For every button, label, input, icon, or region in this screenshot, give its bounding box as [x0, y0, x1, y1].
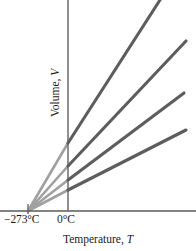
- x-axis-title-text: Temperature,: [63, 233, 127, 245]
- extrapolated-line-2: [28, 166, 68, 211]
- y-axis-title-text: Volume,: [49, 76, 61, 117]
- data-line-4: [68, 130, 186, 190]
- y-axis-title-variable: V: [49, 69, 61, 76]
- extrapolated-segments: [28, 143, 68, 211]
- x-tick-label-zero-celsius: 0°C: [57, 213, 75, 225]
- measured-segments: [68, 0, 186, 190]
- extrapolated-line-3: [28, 180, 68, 211]
- x-axis-title-variable: T: [127, 233, 133, 245]
- x-axis-title: Temperature, T: [0, 233, 196, 245]
- charles-law-figure: −273°C 0°C Temperature, T Volume, V: [0, 0, 196, 251]
- x-tick-label-absolute-zero: −273°C: [4, 213, 39, 225]
- y-axis-title: Volume, V: [44, 48, 66, 138]
